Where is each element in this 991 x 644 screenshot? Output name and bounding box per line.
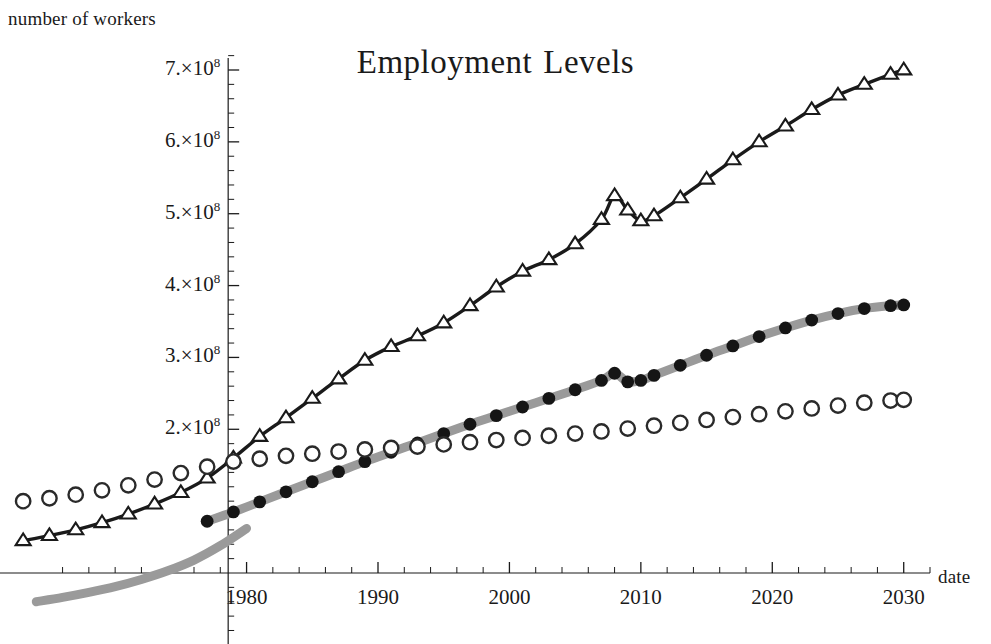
marker-filled-circle [648,369,661,382]
y-tick-label: 4.×108 [0,271,220,297]
x-tick-label: 2010 [591,585,691,610]
marker-open-circle [226,454,240,468]
marker-filled-circle [464,418,477,431]
x-tick-label: 2020 [722,585,822,610]
chart-root: number of workers EmploymentLevels date … [0,0,991,644]
y-tick-label: 5.×108 [0,199,220,225]
marker-filled-circle [779,322,792,335]
marker-open-circle [358,442,372,456]
marker-filled-circle [253,495,266,508]
marker-open-circle [410,439,424,453]
y-tick-label: 6.×108 [0,127,220,153]
marker-open-circle [279,449,293,463]
marker-filled-circle [227,506,240,519]
x-tick-label: 1980 [197,585,297,610]
marker-filled-circle [306,475,319,488]
marker-filled-circle [753,330,766,343]
marker-filled-circle [201,515,214,528]
marker-open-triangle [896,63,911,75]
marker-filled-circle [858,302,871,315]
marker-open-circle [16,494,30,508]
marker-open-circle [515,431,529,445]
marker-open-circle [174,466,188,480]
marker-open-circle [673,416,687,430]
marker-open-circle [621,421,635,435]
marker-filled-circle [726,340,739,353]
marker-filled-circle [805,314,818,327]
marker-filled-circle [569,383,582,396]
marker-open-circle [95,483,109,497]
marker-open-circle [253,452,267,466]
marker-open-circle [647,418,661,432]
marker-filled-circle [674,359,687,372]
y-tick-label: 3.×108 [0,342,220,368]
marker-open-circle [305,447,319,461]
marker-open-circle [831,398,845,412]
marker-open-circle [778,404,792,418]
marker-filled-circle [332,465,345,478]
marker-filled-circle [542,392,555,405]
x-tick-label: 2000 [459,585,559,610]
marker-open-circle [752,407,766,421]
x-tick-label: 2030 [854,585,954,610]
marker-open-circle [568,426,582,440]
marker-filled-circle [516,401,529,414]
x-tick-label: 1990 [328,585,428,610]
marker-open-circle [857,395,871,409]
marker-filled-circle [608,367,621,380]
marker-open-circle [147,472,161,486]
y-tick-label: 7.×108 [0,55,220,81]
marker-open-circle [699,413,713,427]
marker-filled-circle [897,299,910,312]
marker-filled-circle [280,485,293,498]
marker-filled-circle [595,374,608,387]
marker-open-circle [726,410,740,424]
plot-area [0,0,991,644]
marker-open-triangle [607,189,622,201]
marker-open-circle [69,487,83,501]
series-projected-line [207,305,904,521]
marker-filled-circle [490,409,503,422]
marker-filled-circle [700,349,713,362]
marker-open-circle [42,491,56,505]
marker-open-circle [200,459,214,473]
marker-open-circle [542,429,556,443]
marker-open-circle [437,437,451,451]
marker-open-circle [463,435,477,449]
marker-open-circle [384,441,398,455]
marker-filled-circle [621,375,634,388]
marker-filled-circle [634,374,647,387]
marker-open-circle [897,393,911,407]
marker-filled-circle [832,307,845,320]
marker-open-circle [489,433,503,447]
marker-open-circle [805,401,819,415]
marker-filled-circle [884,299,897,312]
marker-open-circle [331,444,345,458]
y-tick-label: 2.×108 [0,414,220,440]
marker-open-circle [121,478,135,492]
marker-open-circle [594,424,608,438]
